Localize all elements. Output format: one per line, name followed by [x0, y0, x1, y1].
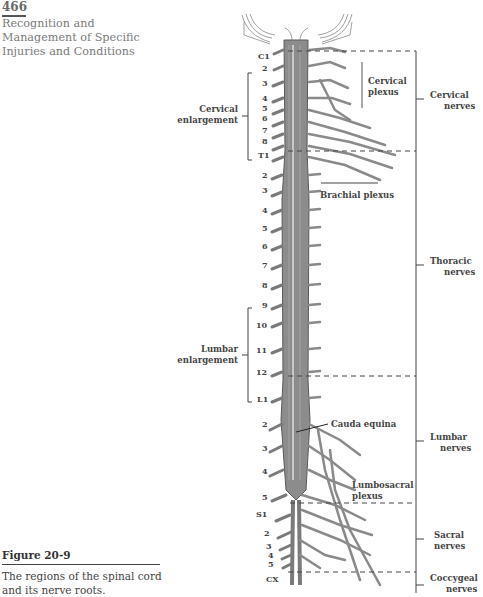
svg-text:6: 6 — [262, 113, 268, 123]
svg-text:2: 2 — [262, 63, 268, 73]
coccygeal-nerves-label: Coccygeal — [430, 573, 479, 583]
svg-text:nerves: nerves — [444, 101, 475, 111]
region-bracket — [416, 51, 424, 593]
svg-text:8: 8 — [262, 136, 268, 146]
svg-text:nerves: nerves — [434, 541, 465, 551]
svg-text:C1: C1 — [258, 51, 270, 61]
svg-text:T1: T1 — [258, 150, 270, 160]
svg-text:2: 2 — [262, 170, 268, 180]
lumbosacral-plexus-label: Lumbosacral — [352, 480, 414, 490]
figure-caption: The regions of the spinal cord and its n… — [2, 569, 172, 597]
svg-text:3: 3 — [262, 185, 268, 195]
svg-text:4: 4 — [262, 93, 268, 103]
brachial-plexus-label: Brachial plexus — [320, 190, 394, 200]
svg-text:S1: S1 — [256, 509, 267, 519]
svg-text:nerves: nerves — [446, 584, 477, 593]
svg-text:8: 8 — [262, 280, 268, 290]
sacral-nerves-label: Sacral — [434, 530, 465, 540]
svg-text:enlargement: enlargement — [177, 355, 238, 365]
svg-text:nerves: nerves — [440, 443, 471, 453]
svg-text:9: 9 — [262, 300, 268, 310]
svg-text:CX: CX — [266, 574, 279, 584]
svg-text:2: 2 — [262, 419, 268, 429]
lumbar-nerves-label: Lumbar — [430, 432, 468, 442]
svg-text:11: 11 — [256, 345, 267, 355]
figure-label: Figure 20-9 — [2, 549, 71, 561]
svg-text:enlargement: enlargement — [177, 115, 238, 125]
svg-text:4: 4 — [262, 205, 268, 215]
svg-text:10: 10 — [256, 320, 268, 330]
spinal-cord — [281, 40, 310, 585]
svg-text:4: 4 — [262, 466, 268, 476]
svg-text:3: 3 — [262, 78, 268, 88]
cervical-nerves-label: Cervical — [430, 90, 470, 100]
svg-text:L1: L1 — [257, 394, 268, 404]
svg-text:plexus: plexus — [368, 87, 399, 97]
svg-text:7: 7 — [262, 260, 268, 270]
svg-text:5: 5 — [268, 559, 274, 569]
thoracic-nerves-label: Thoracic — [430, 256, 472, 266]
figure-rule — [2, 564, 160, 565]
svg-text:nerves: nerves — [444, 267, 475, 277]
cervical-plexus-label: Cervical — [368, 76, 408, 86]
svg-text:7: 7 — [262, 125, 268, 135]
svg-text:6: 6 — [262, 241, 268, 251]
svg-text:12: 12 — [256, 367, 267, 377]
left-brackets — [242, 73, 252, 402]
svg-text:plexus: plexus — [352, 491, 383, 501]
svg-text:3: 3 — [262, 443, 268, 453]
cauda-equina-label: Cauda equina — [331, 419, 397, 429]
lumbar-enlargement-label: Lumbar — [201, 344, 239, 354]
svg-text:5: 5 — [262, 103, 268, 113]
cervical-enlargement-label: Cervical — [199, 104, 239, 114]
svg-text:5: 5 — [262, 492, 268, 502]
svg-text:5: 5 — [262, 223, 268, 233]
segment-labels: C1 2 3 4 5 6 7 8 T1 2 3 4 5 6 7 8 9 10 1… — [256, 51, 279, 584]
right-nerve-branches — [300, 48, 395, 585]
svg-text:2: 2 — [264, 528, 270, 538]
